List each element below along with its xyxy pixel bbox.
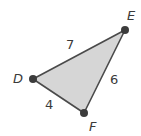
- vertex-f-point: [80, 109, 88, 117]
- vertex-label-f: F: [89, 119, 97, 134]
- side-label-ef: 6: [110, 72, 118, 87]
- side-label-de: 7: [66, 37, 74, 52]
- vertex-d-point: [29, 75, 37, 83]
- vertex-label-e: E: [127, 8, 136, 23]
- vertex-label-d: D: [13, 71, 23, 86]
- triangle-diagram: D E F 7 6 4: [0, 0, 141, 136]
- vertex-e-point: [121, 26, 129, 34]
- side-label-df: 4: [45, 97, 53, 112]
